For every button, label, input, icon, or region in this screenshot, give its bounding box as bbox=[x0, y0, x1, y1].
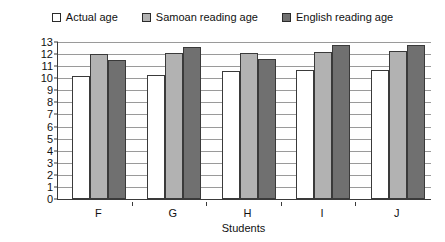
x-tick-mark bbox=[355, 202, 356, 206]
bar bbox=[240, 53, 258, 199]
bar bbox=[371, 70, 389, 199]
x-tick-label: F bbox=[95, 207, 102, 219]
legend-item: Actual age bbox=[52, 12, 118, 23]
y-tick-label: 11 bbox=[42, 61, 53, 72]
x-axis-ticks: FGHIJ bbox=[57, 202, 430, 218]
legend-swatch-icon bbox=[282, 13, 291, 22]
legend-swatch-icon bbox=[52, 13, 61, 22]
y-tick-label: 9 bbox=[47, 85, 53, 96]
bar bbox=[258, 59, 276, 199]
legend-label: English reading age bbox=[296, 12, 393, 23]
bar bbox=[108, 60, 126, 199]
legend-swatch-icon bbox=[142, 13, 151, 22]
bar bbox=[314, 52, 332, 199]
bar-chart: Actual ageSamoan reading ageEnglish read… bbox=[0, 0, 445, 242]
y-tick-label: 3 bbox=[47, 157, 53, 168]
y-tick-label: 6 bbox=[47, 121, 53, 132]
y-tick-label: 0 bbox=[47, 194, 53, 205]
bar bbox=[90, 54, 108, 199]
bars-layer bbox=[58, 42, 431, 199]
plot-area: 012345678910111213 bbox=[57, 42, 431, 200]
y-tick-label: 8 bbox=[47, 97, 53, 108]
y-tick-label: 1 bbox=[47, 181, 53, 192]
legend-item: English reading age bbox=[282, 12, 393, 23]
x-tick-label: G bbox=[169, 207, 178, 219]
x-tick-label: H bbox=[244, 207, 252, 219]
x-tick-label: I bbox=[321, 207, 324, 219]
legend-item: Samoan reading age bbox=[142, 12, 258, 23]
bar bbox=[183, 47, 201, 199]
bar bbox=[389, 51, 407, 199]
y-tick-label: 2 bbox=[47, 169, 53, 180]
legend-label: Actual age bbox=[66, 12, 118, 23]
legend-label: Samoan reading age bbox=[156, 12, 258, 23]
bar bbox=[222, 71, 240, 199]
bar bbox=[147, 75, 165, 199]
y-tick-label: 5 bbox=[47, 133, 53, 144]
bar bbox=[72, 76, 90, 199]
y-tick-label: 4 bbox=[47, 145, 53, 156]
bar bbox=[165, 53, 183, 199]
bar bbox=[296, 70, 314, 199]
chart-legend: Actual ageSamoan reading ageEnglish read… bbox=[0, 6, 445, 28]
y-tick-label: 10 bbox=[41, 73, 53, 84]
x-axis-title: Students bbox=[57, 222, 430, 234]
y-tick-label: 13 bbox=[41, 37, 53, 48]
x-tick-mark bbox=[281, 202, 282, 206]
x-tick-mark bbox=[132, 202, 133, 206]
bar bbox=[407, 45, 425, 199]
x-tick-label: J bbox=[394, 207, 400, 219]
y-tick-label: 7 bbox=[47, 109, 53, 120]
x-tick-mark bbox=[206, 202, 207, 206]
bar bbox=[332, 45, 350, 199]
y-tick-label: 12 bbox=[41, 49, 53, 60]
